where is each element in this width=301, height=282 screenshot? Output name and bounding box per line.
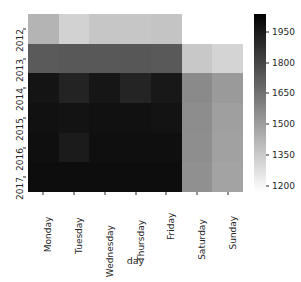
heatmap-plot-area (28, 14, 243, 192)
heatmap-cell (120, 162, 151, 192)
x-axis: MondayTuesdayWednesdayThursdayFridaySatu… (28, 192, 243, 262)
heatmap-cell (212, 44, 243, 74)
colorbar-tick-mark (266, 31, 269, 32)
heatmap-figure: 201220132014201520162017 MondayTuesdayWe… (0, 0, 301, 282)
heatmap-cell (151, 133, 182, 163)
heatmap-cell (120, 14, 151, 44)
heatmap-cell (182, 133, 213, 163)
x-tick-mark (43, 192, 44, 195)
x-tick-label: Wednesday (105, 225, 115, 277)
heatmap-cell (212, 133, 243, 163)
heatmap-cell (120, 103, 151, 133)
y-tick-label: 2014 (15, 88, 25, 111)
x-tick-label: Sunday (228, 216, 238, 250)
y-axis: 201220132014201520162017 (0, 14, 26, 192)
heatmap-cell (182, 162, 213, 192)
colorbar-tick-mark (266, 124, 269, 125)
heatmap-cell (28, 14, 59, 44)
colorbar-tick-mark (266, 185, 269, 186)
heatmap-cell (120, 73, 151, 103)
heatmap-cell (59, 103, 90, 133)
heatmap-cell (151, 73, 182, 103)
heatmap-cell-grid (28, 14, 243, 192)
heatmap-cell (212, 162, 243, 192)
heatmap-cell (59, 14, 90, 44)
x-tick-mark (227, 192, 228, 195)
x-tick-mark (135, 192, 136, 195)
heatmap-cell (151, 14, 182, 44)
heatmap-cell (182, 73, 213, 103)
heatmap-cell (89, 14, 120, 44)
colorbar (254, 14, 266, 192)
y-tick-label: 2017 (15, 177, 25, 200)
colorbar-tick-label: 1800 (272, 58, 295, 68)
heatmap-cell (182, 103, 213, 133)
colorbar-tick-label: 1650 (272, 88, 295, 98)
y-tick-label: 2012 (15, 29, 25, 52)
heatmap-cell (59, 133, 90, 163)
heatmap-cell (151, 103, 182, 133)
x-tick-label: Tuesday (74, 217, 84, 254)
heatmap-cell (212, 14, 243, 44)
heatmap-cell (28, 73, 59, 103)
heatmap-cell (212, 103, 243, 133)
x-tick-label: Saturday (197, 219, 207, 260)
heatmap-cell (120, 133, 151, 163)
x-tick-mark (74, 192, 75, 195)
heatmap-cell (151, 162, 182, 192)
heatmap-cell (28, 133, 59, 163)
x-tick-mark (196, 192, 197, 195)
x-tick-mark (104, 192, 105, 195)
colorbar-tick-label: 1500 (272, 119, 295, 129)
heatmap-cell (28, 162, 59, 192)
y-tick-label: 2016 (15, 148, 25, 171)
heatmap-cell (212, 73, 243, 103)
x-tick-label: Friday (166, 213, 176, 240)
y-tick-label: 2015 (15, 118, 25, 141)
colorbar-tick-label: 1200 (272, 181, 295, 191)
heatmap-cell (28, 44, 59, 74)
heatmap-cell (59, 162, 90, 192)
y-tick-label: 2013 (15, 59, 25, 82)
colorbar-axis: 195018001650150013501200 (266, 14, 301, 192)
x-axis-title: day (28, 255, 243, 266)
colorbar-gradient (254, 14, 266, 192)
colorbar-tick-label: 1350 (272, 150, 295, 160)
colorbar-tick-mark (266, 62, 269, 63)
heatmap-cell (120, 44, 151, 74)
heatmap-cell (182, 14, 213, 44)
x-tick-label: Monday (43, 217, 53, 253)
heatmap-cell (89, 73, 120, 103)
heatmap-cell (28, 103, 59, 133)
heatmap-cell (182, 44, 213, 74)
colorbar-tick-mark (266, 93, 269, 94)
heatmap-cell (59, 73, 90, 103)
heatmap-cell (59, 44, 90, 74)
heatmap-cell (89, 44, 120, 74)
colorbar-tick-label: 1950 (272, 27, 295, 37)
heatmap-cell (89, 133, 120, 163)
heatmap-cell (89, 103, 120, 133)
x-tick-mark (166, 192, 167, 195)
heatmap-cell (151, 44, 182, 74)
heatmap-cell (89, 162, 120, 192)
colorbar-tick-mark (266, 155, 269, 156)
